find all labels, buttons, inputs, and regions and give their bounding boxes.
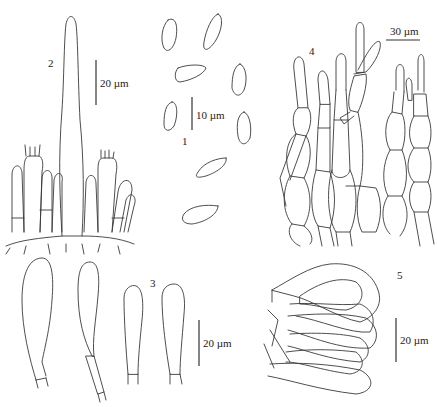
scale-label-panel-3: 20 µm <box>203 338 232 349</box>
panel-label-1: 1 <box>182 136 188 147</box>
panel-label-2: 2 <box>48 58 54 69</box>
figure-plate: 2 1 3 4 5 20 µm 10 µm 30 µm 20 µm 20 µm <box>0 0 437 407</box>
scale-label-panel-2: 20 µm <box>100 78 129 89</box>
panel-2-drawing <box>6 17 135 255</box>
scale-label-panel-5: 20 µm <box>400 335 429 346</box>
panel-3-drawing <box>22 258 185 402</box>
scale-label-panel-1: 10 µm <box>196 110 225 121</box>
scale-label-panel-4: 30 µm <box>390 26 419 37</box>
panel-label-3: 3 <box>150 278 156 289</box>
panel-5-drawing <box>264 264 380 394</box>
panel-label-4: 4 <box>309 46 315 57</box>
panel-4-drawing <box>280 23 434 247</box>
panel-label-5: 5 <box>397 270 403 281</box>
